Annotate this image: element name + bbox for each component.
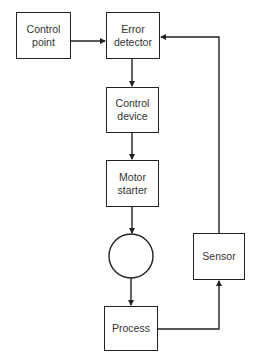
sensor-label: Sensor <box>202 250 235 263</box>
control-point-label: Control point <box>27 23 61 49</box>
motor-starter-label: Motor starter <box>118 171 148 197</box>
error-detector-box: Error detector <box>106 12 160 59</box>
process-label: Process <box>112 322 150 335</box>
control-device-box: Control device <box>106 87 159 133</box>
sensor-box: Sensor <box>193 233 245 280</box>
control-point-box: Control point <box>16 12 71 59</box>
error-detector-label: Error detector <box>114 23 152 49</box>
arrow-sensor-to-error-detector <box>161 37 219 233</box>
motor-starter-box: Motor starter <box>106 160 159 207</box>
motor-circle <box>109 234 153 278</box>
control-device-label: Control device <box>116 97 150 123</box>
arrow-process-to-sensor <box>158 281 219 329</box>
process-box: Process <box>104 306 158 351</box>
